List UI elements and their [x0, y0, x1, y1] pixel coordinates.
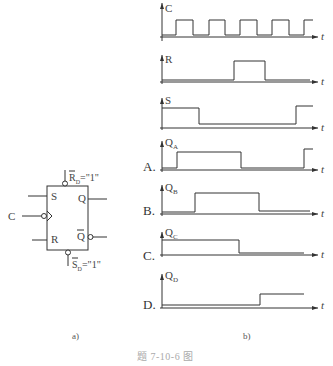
signal-qc-label: QC — [165, 227, 178, 243]
pin-s-label: S — [51, 191, 57, 202]
option-b-label[interactable]: B. — [143, 204, 155, 217]
qb-time-label: t — [321, 208, 324, 219]
c-time-label: t — [321, 31, 324, 42]
qb-waveform — [162, 193, 310, 212]
clock-edge-symbol — [47, 211, 52, 221]
figure-caption: 题 7-10-6 图 — [137, 348, 194, 363]
rd-bubble — [63, 181, 68, 186]
r-time-label: t — [321, 76, 324, 87]
signal-c-label: C — [165, 3, 172, 14]
qd-time-label: t — [321, 300, 324, 311]
qa-waveform — [162, 149, 313, 168]
signal-qb-label: QB — [165, 182, 178, 198]
rd-label: RD="1" — [69, 172, 99, 188]
option-c-label[interactable]: C. — [143, 249, 155, 262]
option-d-label[interactable]: D. — [143, 298, 156, 311]
pin-q-label: Q — [78, 193, 86, 204]
pin-qbar-label: Q — [77, 231, 85, 242]
subfigure-a-caption: a) — [72, 331, 79, 341]
pin-c-label: C — [8, 211, 15, 222]
signal-qa-label: QA — [165, 137, 178, 153]
signal-r-label: R — [165, 54, 172, 65]
signal-s-label: S — [165, 95, 171, 106]
option-a-label[interactable]: A. — [143, 160, 156, 173]
c-waveform — [162, 20, 313, 35]
qa-time-label: t — [321, 164, 324, 175]
c-inversion-bubble — [42, 214, 47, 219]
pin-r-label: R — [51, 234, 58, 245]
s-waveform — [162, 106, 313, 124]
r-waveform — [162, 61, 310, 80]
qc-time-label: t — [321, 249, 324, 260]
signal-qd-label: QD — [165, 270, 178, 286]
sd-bubble — [66, 250, 71, 255]
s-time-label: t — [321, 122, 324, 133]
qc-waveform — [162, 240, 304, 253]
qbar-bubble — [88, 235, 93, 240]
qd-waveform — [162, 294, 304, 305]
sd-label: SD="1" — [72, 259, 101, 275]
subfigure-b-caption: b) — [243, 331, 251, 341]
